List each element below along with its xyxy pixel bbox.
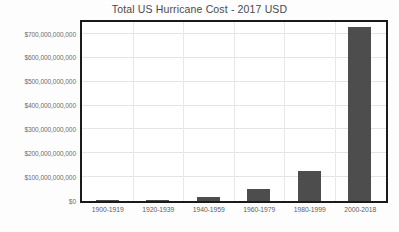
bar (96, 200, 119, 201)
bar (197, 197, 220, 201)
x-axis-tick-label: 1980-1999 (294, 206, 326, 213)
chart-title: Total US Hurricane Cost - 2017 USD (0, 3, 399, 15)
y-axis-tick-label: $0 (0, 197, 76, 204)
y-axis-tick-label: $100,000,000,000 (0, 173, 76, 180)
bar (298, 171, 321, 201)
x-axis-tick-label: 2000-2018 (344, 206, 376, 213)
x-axis-tick-label: 1960-1979 (243, 206, 275, 213)
y-axis-tick-label: $200,000,000,000 (0, 149, 76, 156)
bars-layer (82, 22, 386, 201)
y-axis-tick-label: $500,000,000,000 (0, 78, 76, 85)
bar (348, 27, 371, 201)
plot-area (80, 20, 388, 203)
y-axis-tick-labels: $0$100,000,000,000$200,000,000,000$300,0… (0, 20, 76, 203)
y-axis-tick-label: $700,000,000,000 (0, 30, 76, 37)
x-axis-tick-label: 1940-1959 (193, 206, 225, 213)
bar (247, 189, 270, 201)
y-axis-tick-label: $600,000,000,000 (0, 54, 76, 61)
x-axis-tick-label: 1900-1919 (92, 206, 124, 213)
bar (146, 200, 169, 201)
y-axis-tick-label: $300,000,000,000 (0, 125, 76, 132)
x-axis-category-labels: 1900-19191920-19391940-19591960-19791980… (80, 206, 388, 222)
hurricane-cost-bar-chart: Total US Hurricane Cost - 2017 USD $0$10… (0, 0, 399, 232)
x-axis-tick-label: 1920-1939 (142, 206, 174, 213)
y-axis-tick-label: $400,000,000,000 (0, 102, 76, 109)
